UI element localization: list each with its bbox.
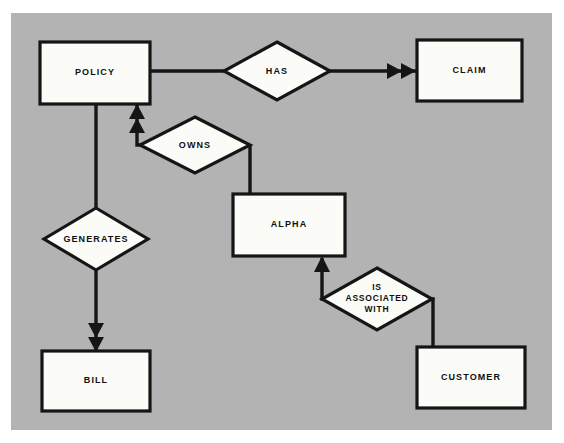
entity-customer-label: CUSTOMER [441,372,501,382]
relationship-is-associated-with-label-line3: WITH [365,304,390,314]
diagram-graphics: POLICY CLAIM ALPHA BILL CUSTOMER [0,0,564,443]
arrowhead-owns-policy-inner [129,118,145,133]
relationship-owns[interactable]: OWNS [140,117,250,173]
entity-customer[interactable]: CUSTOMER [417,347,525,408]
relationship-generates-label: GENERATES [63,234,128,244]
relationship-generates[interactable]: GENERATES [44,208,148,270]
entity-claim[interactable]: CLAIM [417,40,522,101]
entity-alpha[interactable]: ALPHA [233,194,345,256]
arrowhead-associated-alpha [314,256,330,272]
connector-customer-associated [432,299,433,347]
entity-bill-label: BILL [84,375,108,385]
entity-policy-label: POLICY [75,67,115,77]
arrowhead-has-claim-outer [401,63,416,79]
relationship-has-label: HAS [266,66,288,76]
relationship-is-associated-with[interactable]: IS ASSOCIATED WITH [322,268,432,330]
arrowhead-generates-bill-inner [88,323,104,338]
entity-claim-label: CLAIM [453,65,487,75]
relationship-is-associated-with-label-line2: ASSOCIATED [345,293,408,303]
entity-policy[interactable]: POLICY [40,42,150,104]
arrowhead-owns-policy-outer [129,104,145,119]
arrowhead-has-claim-inner [387,63,402,79]
relationship-owns-label: OWNS [179,140,211,150]
relationship-has[interactable]: HAS [224,42,330,100]
entity-alpha-label: ALPHA [271,219,308,229]
relationship-is-associated-with-label-line1: IS [372,282,382,292]
er-diagram-page: POLICY CLAIM ALPHA BILL CUSTOMER [0,0,564,443]
entity-bill[interactable]: BILL [42,351,150,411]
